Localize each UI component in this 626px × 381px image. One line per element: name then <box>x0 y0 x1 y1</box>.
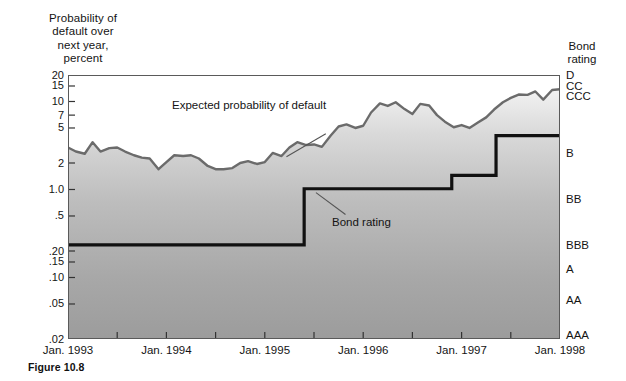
y-axis-title: Probability of default over next year, p… <box>18 12 148 66</box>
right-axis-rating-label: A <box>566 263 626 275</box>
annotation-expected-default: Expected probability of default <box>172 99 326 111</box>
right-axis-title-line-2: rating <box>546 53 618 66</box>
y-tick-label: .05 <box>28 298 64 309</box>
right-axis-rating-label: B <box>566 147 626 159</box>
y-axis-tick-labels: 2015107521.0.5.20.15.10.05.02 <box>20 75 64 339</box>
y-tick-label: .10 <box>28 272 64 283</box>
right-axis-title: Bond rating <box>546 40 618 67</box>
right-axis-rating-labels: DCCCCCBBBBBBAAAAAA <box>566 75 626 345</box>
y-tick-label: 15 <box>28 80 64 91</box>
x-tick-label: Jan. 1998 <box>520 344 600 356</box>
x-axis-tick-labels: Jan. 1993Jan. 1994Jan. 1995Jan. 1996Jan.… <box>0 344 626 360</box>
x-tick-label: Jan. 1993 <box>28 344 108 356</box>
y-tick-label: 10 <box>28 96 64 107</box>
right-axis-rating-label: BB <box>566 193 626 205</box>
y-axis-title-line-2: default over <box>18 25 148 38</box>
right-axis-rating-label: BBB <box>566 239 626 251</box>
figure-caption: Figure 10.8 <box>28 361 85 373</box>
plot-area <box>68 75 560 339</box>
right-axis-title-line-1: Bond <box>546 40 618 53</box>
y-tick-label: .02 <box>28 334 64 345</box>
y-axis-title-line-4: percent <box>18 52 148 65</box>
y-tick-label: .5 <box>28 210 64 221</box>
x-tick-label: Jan. 1994 <box>126 344 206 356</box>
y-axis-title-line-1: Probability of <box>18 12 148 25</box>
y-tick-label: 5 <box>28 122 64 133</box>
y-tick-label: 2 <box>28 158 64 169</box>
right-axis-rating-label: CCC <box>566 90 626 102</box>
chart-canvas <box>68 75 560 339</box>
y-tick-label: 7 <box>28 110 64 121</box>
right-axis-rating-label: AAA <box>566 329 626 341</box>
y-tick-label: 1.0 <box>28 184 64 195</box>
x-tick-label: Jan. 1997 <box>422 344 502 356</box>
y-axis-title-line-3: next year, <box>18 39 148 52</box>
x-tick-label: Jan. 1995 <box>225 344 305 356</box>
right-axis-rating-label: AA <box>566 294 626 306</box>
figure-container: Probability of default over next year, p… <box>0 0 626 381</box>
x-tick-label: Jan. 1996 <box>323 344 403 356</box>
annotation-bond-rating: Bond rating <box>332 216 391 228</box>
y-tick-label: .15 <box>28 256 64 267</box>
